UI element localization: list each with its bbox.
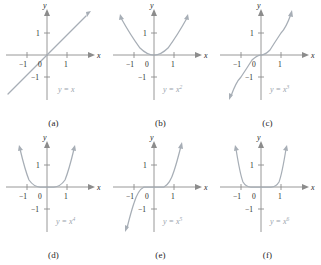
y-tick-label-negative-1: −1 [138,73,146,82]
y-axis-arrow [151,9,157,16]
panel-caption-a: (a) [0,118,107,128]
equation-label-c: y = x3 [269,84,290,94]
curve-arrow-e-top [178,142,183,149]
equation-label-e: y = x5 [162,216,183,226]
y-axis-label: y [149,1,154,10]
curve-arrow-c-bottom [229,93,233,100]
plot-area-c: x y −1 1 1 −1 0 y = x3 [214,0,321,110]
x-tick-label-negative-1: −1 [233,60,241,69]
graph-a: x y −1 1 1 −1 0 y = x [0,0,107,110]
x-tick-label-positive-1: 1 [64,192,68,201]
origin-label: 0 [38,192,42,201]
x-tick-label-positive-1: 1 [64,60,68,69]
graph-b: x y −1 1 1 −1 0 y = x2 [107,0,214,110]
equation-label-d: y = x4 [55,216,76,226]
graph-d: x y −1 1 1 −1 0 y = x4 [0,132,107,242]
panel-a: x y −1 1 1 −1 0 y = x (a) [0,0,107,132]
y-axis-arrow [258,9,264,16]
plot-area-d: x y −1 1 1 −1 0 y = x4 [0,132,107,242]
origin-label: 0 [145,60,149,69]
curve-arrow-d-right [71,145,76,151]
x-axis-label: x [203,51,208,60]
y-axis-arrow [258,141,264,148]
y-tick-label-positive-1: 1 [143,29,147,38]
x-tick-label-negative-1: −1 [19,192,27,201]
panel-b: x y −1 1 1 −1 0 y = x2 (b) [107,0,214,132]
origin-label: 0 [252,60,256,69]
x-axis-label: x [203,183,208,192]
y-tick-label-negative-1: −1 [245,73,253,82]
equation-label-b: y = x2 [162,84,183,94]
plot-area-f: x y −1 1 1 −1 0 y = x6 [214,132,321,242]
panel-e: x y −1 1 1 −1 0 y = x5 (e) [107,132,214,264]
curve-arrow-d-left [18,145,23,151]
y-tick-label-positive-1: 1 [143,161,147,170]
equation-label-a: y = x [57,85,75,94]
panel-d: x y −1 1 1 −1 0 y = x4 (d) [0,132,107,264]
x-axis-arrow [88,184,95,190]
y-axis-label: y [149,133,154,142]
graph-c: x y −1 1 1 −1 0 y = x3 [214,0,321,110]
y-tick-label-negative-1: −1 [138,205,146,214]
y-axis-arrow [44,141,50,148]
x-axis-arrow [302,52,309,58]
x-tick-label-negative-1: −1 [126,60,134,69]
y-axis-label: y [42,133,47,142]
y-axis-label: y [256,133,261,142]
x-axis-arrow [195,52,202,58]
x-axis-arrow [88,52,95,58]
curve-arrow-f-left [234,145,239,151]
curve-arrow-b-right [184,14,189,20]
curve-arrow-f-right [283,145,288,151]
y-tick-label-negative-1: −1 [31,73,39,82]
x-tick-label-positive-1: 1 [278,192,282,201]
x-axis-arrow [302,184,309,190]
panel-caption-c: (c) [214,118,321,128]
panel-caption-d: (d) [0,250,107,260]
curve-arrow-a-top [86,11,91,17]
curve-arrow-b-left [119,14,124,20]
x-axis-arrow [195,184,202,190]
panel-caption-b: (b) [107,118,214,128]
y-tick-label-positive-1: 1 [250,29,254,38]
x-tick-label-positive-1: 1 [171,192,175,201]
x-tick-label-negative-1: −1 [233,192,241,201]
x-axis-label: x [96,51,101,60]
x-tick-label-negative-1: −1 [19,60,27,69]
x-axis-label: x [310,51,315,60]
equation-label-f: y = x6 [269,216,290,226]
y-tick-label-negative-1: −1 [245,205,253,214]
x-tick-label-positive-1: 1 [278,60,282,69]
y-axis-label: y [256,1,261,10]
graph-e: x y −1 1 1 −1 0 y = x5 [107,132,214,242]
y-tick-label-positive-1: 1 [36,29,40,38]
panel-c: x y −1 1 1 −1 0 y = x3 (c) [214,0,321,132]
y-tick-label-positive-1: 1 [250,161,254,170]
curve-arrow-e-bottom [125,225,129,232]
y-axis-arrow [44,9,50,16]
curve-arrow-c-top [288,10,293,17]
origin-label: 0 [145,192,149,201]
panel-caption-f: (f) [214,250,321,260]
panel-caption-e: (e) [107,250,214,260]
origin-label: 0 [252,192,256,201]
plot-area-e: x y −1 1 1 −1 0 y = x5 [107,132,214,242]
x-axis-label: x [96,183,101,192]
x-axis-label: x [310,183,315,192]
y-tick-label-positive-1: 1 [36,161,40,170]
origin-label: 0 [38,60,42,69]
panel-f: x y −1 1 1 −1 0 y = x6 (f) [214,132,321,264]
y-axis-arrow [151,141,157,148]
graph-f: x y −1 1 1 −1 0 y = x6 [214,132,321,242]
power-functions-figure: x y −1 1 1 −1 0 y = x (a) [0,0,321,265]
plot-area-a: x y −1 1 1 −1 0 y = x [0,0,107,110]
x-tick-label-positive-1: 1 [171,60,175,69]
y-tick-label-negative-1: −1 [31,205,39,214]
plot-area-b: x y −1 1 1 −1 0 y = x2 [107,0,214,110]
y-axis-label: y [42,1,47,10]
x-tick-label-negative-1: −1 [126,192,134,201]
